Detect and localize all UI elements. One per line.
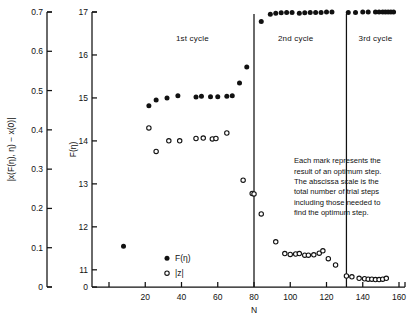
fn-axis-tick-label: 17 — [79, 7, 89, 17]
x-axis-title: N — [251, 305, 257, 315]
fn-axis-title: F(η) — [68, 142, 78, 158]
left-axis-tick-label: 0.7 — [31, 7, 43, 17]
data-point-z — [177, 139, 181, 143]
x-axis-tick-label: 120 — [319, 292, 333, 302]
data-point-fn — [284, 10, 289, 15]
data-point-z — [326, 257, 330, 261]
legend-label: |z| — [175, 268, 184, 278]
cycle-label: 1st cycle — [176, 34, 209, 43]
legend-marker-fn — [165, 256, 170, 261]
x-axis-tick-label: 160 — [392, 292, 406, 302]
data-point-z — [297, 251, 301, 255]
data-point-fn — [208, 94, 213, 99]
data-point-z — [321, 249, 325, 253]
data-point-fn — [175, 93, 180, 98]
left-axis-tick-label: 0.3 — [31, 164, 43, 174]
data-point-z — [274, 240, 278, 244]
data-point-fn — [302, 10, 307, 15]
data-point-fn — [273, 11, 278, 16]
data-point-fn — [259, 19, 264, 24]
data-point-z — [147, 126, 151, 130]
x-axis-tick-label: 80 — [249, 292, 259, 302]
annotation-line: including those needed to — [294, 198, 381, 207]
annotation-line: find the optimum step. — [294, 208, 369, 217]
data-point-fn — [360, 10, 365, 15]
data-point-fn — [297, 11, 302, 16]
data-point-z — [154, 149, 158, 153]
x-axis-tick-label: 40 — [177, 292, 187, 302]
annotation-line: The abscissa scale is the — [294, 177, 379, 186]
data-point-fn — [146, 103, 151, 108]
left-axis-tick-label: 0.5 — [31, 86, 43, 96]
data-point-fn — [215, 94, 220, 99]
data-point-z — [288, 252, 292, 256]
annotation-line: result of an optimum step. — [294, 167, 381, 176]
data-point-z — [350, 275, 354, 279]
data-point-fn — [165, 95, 170, 100]
data-point-z — [167, 139, 171, 143]
data-point-z — [214, 136, 218, 140]
data-point-z — [252, 192, 256, 196]
data-point-fn — [268, 12, 273, 17]
annotation-line: Each mark represents the — [294, 156, 381, 165]
cycle-label: 2nd cycle — [278, 34, 314, 43]
x-axis-tick-label: 20 — [141, 292, 151, 302]
data-point-fn — [353, 10, 358, 15]
data-point-fn — [121, 244, 126, 249]
left-axis-title: |x(F(η), η) − x(0)| — [6, 118, 16, 182]
fn-axis-zero-label: 0 — [83, 282, 88, 292]
data-point-fn — [290, 10, 295, 15]
data-point-z — [201, 136, 205, 140]
annotation-line: total number of trial steps — [294, 187, 379, 196]
data-point-z — [357, 276, 361, 280]
chart-figure: 00.10.20.30.40.50.60.7|x(F(η), η) − x(0)… — [0, 0, 411, 321]
fn-axis-tick-label: 14 — [79, 136, 89, 146]
data-point-z — [241, 178, 245, 182]
data-point-fn — [313, 10, 318, 15]
data-point-fn — [230, 93, 235, 98]
data-point-fn — [244, 65, 249, 70]
left-axis-tick-label: 0.6 — [31, 46, 43, 56]
data-point-fn — [224, 94, 229, 99]
fn-axis-tick-label: 16 — [79, 50, 89, 60]
left-axis-tick-label: 0 — [38, 282, 43, 292]
data-point-fn — [346, 10, 351, 15]
data-point-fn — [279, 10, 284, 15]
data-point-z — [312, 253, 316, 257]
data-point-z — [259, 212, 263, 216]
data-point-z — [283, 251, 287, 255]
data-point-z — [333, 263, 337, 267]
fn-axis-tick-label: 15 — [79, 93, 89, 103]
data-point-fn — [366, 10, 371, 15]
cycle-label: 3rd cycle — [359, 34, 393, 43]
x-axis-tick-label: 60 — [213, 292, 223, 302]
fn-axis-tick-label: 11 — [79, 265, 88, 275]
data-point-fn — [308, 10, 313, 15]
data-point-z — [194, 136, 198, 140]
data-point-fn — [194, 95, 199, 100]
data-point-fn — [329, 10, 334, 15]
data-point-z — [344, 274, 348, 278]
x-axis-tick-label: 140 — [356, 292, 370, 302]
scatter-plot-svg: 00.10.20.30.40.50.60.7|x(F(η), η) − x(0)… — [0, 0, 411, 321]
data-point-fn — [237, 80, 242, 85]
x-axis-tick-label: 100 — [283, 292, 297, 302]
left-axis-tick-label: 0.4 — [31, 125, 43, 135]
data-point-fn — [391, 10, 396, 15]
legend-marker-z — [165, 271, 169, 275]
left-axis-tick-label: 0.2 — [31, 203, 43, 213]
data-point-z — [306, 253, 310, 257]
legend-label: F(η) — [175, 253, 191, 263]
fn-axis-tick-label: 12 — [79, 222, 89, 232]
data-point-fn — [154, 98, 159, 103]
data-point-fn — [319, 10, 324, 15]
data-point-z — [384, 276, 388, 280]
left-axis-tick-label: 0.1 — [31, 243, 43, 253]
fn-axis-tick-label: 13 — [79, 179, 89, 189]
data-point-z — [225, 131, 229, 135]
data-point-fn — [324, 10, 329, 15]
data-point-fn — [199, 94, 204, 99]
